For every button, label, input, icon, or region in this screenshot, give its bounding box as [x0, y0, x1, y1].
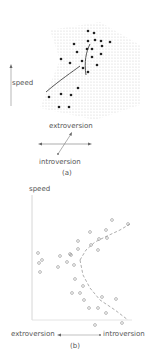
scatter-point — [105, 229, 108, 232]
scatter-point — [57, 266, 60, 269]
surface-point — [73, 43, 76, 46]
caption-a: (a) — [62, 170, 72, 177]
surface-point — [101, 45, 104, 48]
surface-point — [68, 106, 71, 109]
scatter-point — [121, 322, 124, 325]
surface-point — [76, 51, 79, 54]
scatter-point — [98, 238, 101, 241]
scatter-point — [97, 249, 100, 252]
surface-point — [58, 106, 61, 109]
scatter-point — [41, 259, 44, 262]
surface-point — [91, 48, 94, 51]
surface-point — [86, 48, 89, 51]
surface-point — [100, 40, 103, 43]
panel-a-cusp-surface: speed extroversion introversion (a) — [0, 0, 155, 180]
surface-point — [77, 87, 80, 90]
scatter-point — [77, 248, 80, 251]
surface-point — [87, 40, 90, 43]
speed-arrowhead-icon — [10, 64, 13, 68]
introversion-label-a: introversion — [39, 159, 81, 166]
surface-point — [94, 39, 97, 42]
scatter-point — [39, 271, 42, 274]
arrowhead-right-icon — [88, 143, 92, 146]
surface-point — [60, 58, 63, 61]
scatter-point — [77, 240, 80, 243]
speed-label-a: speed — [12, 80, 33, 87]
dashed-fit-curves — [80, 224, 130, 320]
scatter-data-points — [37, 219, 130, 327]
extroversion-label-b: extroversion — [11, 331, 55, 338]
surface-point — [109, 41, 112, 44]
surface-point — [60, 93, 63, 96]
surface-point — [96, 64, 99, 67]
scatter-point — [94, 324, 97, 327]
scatter-point — [90, 244, 93, 247]
scatter-point — [97, 307, 100, 310]
arrowhead-left-icon — [57, 334, 61, 337]
scatter-point — [105, 312, 108, 315]
surface-point — [69, 62, 72, 65]
surface-point — [81, 60, 84, 63]
scatter-point — [101, 296, 104, 299]
scatter-point — [88, 307, 91, 310]
scatter-point — [82, 285, 85, 288]
surface-point — [82, 67, 85, 70]
caption-b: (b) — [70, 343, 80, 350]
scatter-point — [74, 278, 77, 281]
speed-label-b: speed — [29, 186, 50, 193]
scatter-point — [106, 237, 109, 240]
surface-point — [87, 71, 90, 74]
surface-point — [91, 56, 94, 59]
surface-shading — [40, 22, 140, 120]
fit-curve-lower — [80, 260, 128, 320]
arrowhead-diag-icon — [69, 132, 72, 136]
scatter-point — [115, 298, 118, 301]
scatter-point — [73, 264, 76, 267]
extroversion-label-a: extroversion — [49, 123, 93, 130]
scatter-point — [66, 261, 69, 264]
scatter-point — [38, 262, 41, 265]
arrowhead-left-icon — [38, 143, 42, 146]
scatter-point — [59, 255, 62, 258]
surface-point — [48, 96, 51, 99]
scatter-point — [37, 252, 40, 255]
cusp-surface-sketch — [0, 0, 155, 180]
introversion-label-b: introversion — [103, 331, 145, 338]
surface-point — [87, 30, 90, 33]
surface-point — [93, 32, 96, 35]
scatter-point — [111, 219, 114, 222]
surface-point — [100, 53, 103, 56]
scatter-plot — [0, 180, 155, 355]
scatter-point — [71, 292, 74, 295]
panel-b-scatter: speed extroversion introversion (b) — [0, 180, 155, 355]
scatter-point — [89, 231, 92, 234]
scatter-point — [83, 299, 86, 302]
scatter-point — [79, 292, 82, 295]
surface-point — [70, 94, 73, 97]
